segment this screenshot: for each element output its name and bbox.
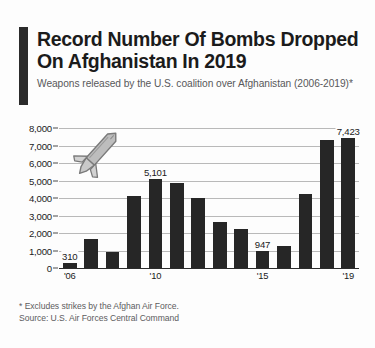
- x-axis: '06'10'15'19: [59, 269, 359, 285]
- y-axis-tick-mark: [53, 128, 58, 129]
- bar-slot[interactable]: [316, 128, 337, 268]
- y-axis-tick-label: 8,000: [29, 123, 52, 134]
- y-axis-tick-label: 5,000: [29, 175, 52, 186]
- y-axis-tick-mark: [53, 215, 58, 216]
- bar-slot[interactable]: 947: [252, 128, 273, 268]
- bar[interactable]: [341, 138, 355, 268]
- bar[interactable]: [84, 239, 98, 268]
- bar-slot[interactable]: 7,423: [337, 128, 358, 268]
- x-axis-slot: [295, 269, 316, 285]
- footnote: * Excludes strikes by the Afghan Air For…: [19, 300, 359, 312]
- header: Record Number Of Bombs Dropped On Afghan…: [19, 27, 359, 105]
- x-axis-tick-label: '10: [150, 270, 162, 281]
- x-axis-tick-label: '19: [342, 270, 354, 281]
- bar[interactable]: [234, 229, 248, 268]
- x-axis-slot: [80, 269, 101, 285]
- x-axis-tick-label: '06: [64, 270, 76, 281]
- bar[interactable]: [149, 179, 163, 268]
- bar[interactable]: [127, 196, 141, 268]
- plot-wrapper: 01,0002,0003,0004,0005,0006,0007,0008,00…: [19, 128, 359, 278]
- bar-slot[interactable]: [123, 128, 144, 268]
- bar-slot[interactable]: [80, 128, 101, 268]
- x-axis-slot: [209, 269, 230, 285]
- y-axis: 01,0002,0003,0004,0005,0006,0007,0008,00…: [19, 128, 57, 268]
- y-axis-tick-mark: [53, 198, 58, 199]
- bar-slot[interactable]: [273, 128, 294, 268]
- x-axis-slot: [102, 269, 123, 285]
- source-credit: Source: U.S. Air Forces Central Command: [19, 312, 359, 324]
- y-axis-tick-mark: [53, 145, 58, 146]
- bar-value-label: 947: [254, 239, 271, 250]
- y-axis-tick-label: 7,000: [29, 140, 52, 151]
- bar[interactable]: [256, 251, 270, 268]
- bar-slot[interactable]: [230, 128, 251, 268]
- bar-slot[interactable]: [209, 128, 230, 268]
- bar[interactable]: [277, 246, 291, 268]
- page-subtitle: Weapons released by the U.S. coalition o…: [37, 77, 359, 90]
- bar-slot[interactable]: 310: [59, 128, 80, 268]
- y-axis-tick-label: 1,000: [29, 245, 52, 256]
- bar[interactable]: [320, 140, 334, 268]
- plot-area: 3105,1019477,423: [59, 128, 359, 269]
- header-text: Record Number Of Bombs Dropped On Afghan…: [37, 27, 359, 105]
- x-axis-slot: [230, 269, 251, 285]
- x-axis-slot: '06: [59, 269, 80, 285]
- y-axis-tick-mark: [53, 180, 58, 181]
- y-axis-tick-label: 4,000: [29, 193, 52, 204]
- bar-slot[interactable]: 5,101: [145, 128, 166, 268]
- bar[interactable]: [63, 263, 77, 268]
- x-axis-slot: [316, 269, 337, 285]
- bar[interactable]: [191, 198, 205, 268]
- x-axis-tick-label: '15: [257, 270, 269, 281]
- bar-series: 3105,1019477,423: [59, 128, 359, 268]
- bar[interactable]: [170, 183, 184, 268]
- title-accent-bar: [19, 27, 28, 105]
- x-axis-slot: '19: [337, 269, 358, 285]
- bar-slot[interactable]: [102, 128, 123, 268]
- x-axis-slot: '10: [145, 269, 166, 285]
- bar-value-label: 310: [61, 251, 78, 262]
- bar-slot[interactable]: [188, 128, 209, 268]
- y-axis-tick-mark: [53, 250, 58, 251]
- bar-value-label: 7,423: [336, 126, 361, 137]
- y-axis-tick-label: 3,000: [29, 210, 52, 221]
- infographic-page: Record Number Of Bombs Dropped On Afghan…: [0, 0, 375, 348]
- bar-slot[interactable]: [166, 128, 187, 268]
- x-axis-slot: '15: [252, 269, 273, 285]
- x-axis-slot: [273, 269, 294, 285]
- bar[interactable]: [299, 194, 313, 268]
- x-axis-slot: [188, 269, 209, 285]
- y-axis-tick-label: 0: [47, 263, 52, 274]
- page-title: Record Number Of Bombs Dropped On Afghan…: [37, 28, 359, 72]
- y-axis-tick-mark: [53, 268, 58, 269]
- y-axis-tick-label: 6,000: [29, 158, 52, 169]
- bar[interactable]: [106, 252, 120, 268]
- y-axis-tick-mark: [53, 163, 58, 164]
- y-axis-tick-mark: [53, 233, 58, 234]
- bar-slot[interactable]: [295, 128, 316, 268]
- y-axis-tick-label: 2,000: [29, 228, 52, 239]
- x-axis-slot: [166, 269, 187, 285]
- x-axis-slot: [123, 269, 144, 285]
- bar[interactable]: [213, 222, 227, 268]
- bar-chart: 01,0002,0003,0004,0005,0006,0007,0008,00…: [19, 128, 359, 296]
- bar-value-label: 5,101: [143, 167, 168, 178]
- footer: * Excludes strikes by the Afghan Air For…: [19, 300, 359, 324]
